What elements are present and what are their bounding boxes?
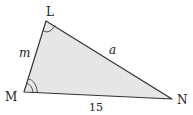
triangle-lmn: [24, 21, 172, 99]
triangle-diagram: L M N m a 15: [0, 0, 193, 115]
vertex-label-n: N: [177, 93, 188, 107]
side-label-m: m: [19, 46, 30, 60]
side-label-15: 15: [89, 101, 103, 114]
side-label-a: a: [109, 43, 116, 57]
vertex-label-m: M: [5, 90, 17, 104]
vertex-label-l: L: [46, 5, 54, 19]
